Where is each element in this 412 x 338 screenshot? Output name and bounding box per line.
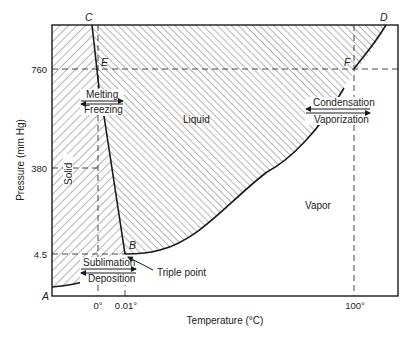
x-tick-0: 0° <box>93 300 102 311</box>
region-label-vapor: Vapor <box>305 200 332 211</box>
process-label-freezing: Freezing <box>84 104 123 115</box>
process-label-condensation: Condensation <box>313 97 375 108</box>
y-tick-760: 760 <box>31 64 47 75</box>
y-tick-4-5: 4.5 <box>34 249 47 260</box>
point-label-c: C <box>85 11 93 23</box>
process-label-sublimation: Sublimation <box>83 257 135 268</box>
x-tick-001: 0.01° <box>115 300 137 311</box>
triple-point-label: Triple point <box>157 267 206 278</box>
x-tick-100: 100° <box>345 300 365 311</box>
region-label-liquid: Liquid <box>183 114 210 125</box>
point-label-b: B <box>129 239 136 251</box>
process-label-deposition: Deposition <box>88 273 135 284</box>
liquid-region <box>92 25 386 254</box>
process-label-melting: Melting <box>86 89 118 100</box>
point-label-a: A <box>41 290 49 302</box>
point-label-f: F <box>344 56 351 68</box>
y-axis-title: Pressure (mm Hg) <box>15 119 26 201</box>
point-label-e: E <box>101 56 109 68</box>
phase-diagram: C D E F B A Liquid Vapor Solid Melting F… <box>0 0 412 338</box>
point-label-d: D <box>380 11 388 23</box>
x-axis-title: Temperature (°C) <box>187 315 264 326</box>
region-label-solid: Solid <box>63 163 74 185</box>
process-label-vaporization: Vaporization <box>314 114 369 125</box>
y-tick-380: 380 <box>31 163 47 174</box>
